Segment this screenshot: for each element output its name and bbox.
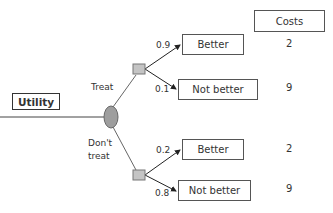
outcome-treat-better: Better xyxy=(182,34,244,55)
outcome-label: Better xyxy=(197,39,228,50)
outcome-dont-better: Better xyxy=(182,139,244,160)
chance-node-dont-treat xyxy=(133,170,145,180)
costs-header-box: Costs xyxy=(254,10,325,32)
chance-node-treat xyxy=(133,64,145,74)
cost-dont-better: 2 xyxy=(286,143,292,154)
outcome-dont-not-better: Not better xyxy=(178,180,251,201)
branch-label-treat2: treat xyxy=(88,151,110,161)
outcome-label: Better xyxy=(197,144,228,155)
prob-treat-better: 0.9 xyxy=(156,40,170,50)
prob-treat-not-better: 0.1 xyxy=(155,84,169,94)
costs-label: Costs xyxy=(276,16,303,27)
branch-label-dont: Don't xyxy=(88,138,112,148)
utility-box: Utility xyxy=(12,93,60,110)
prob-dont-not-better: 0.8 xyxy=(155,188,169,198)
outcome-label: Not better xyxy=(192,84,243,95)
outcome-treat-not-better: Not better xyxy=(178,79,258,100)
utility-label: Utility xyxy=(18,96,54,108)
cost-treat-better: 2 xyxy=(286,38,292,49)
branch-label-treat: Treat xyxy=(91,82,113,92)
prob-dont-better: 0.2 xyxy=(156,145,170,155)
cost-treat-not-better: 9 xyxy=(286,82,292,93)
outcome-label: Not better xyxy=(189,185,240,196)
cost-dont-not-better: 9 xyxy=(286,183,292,194)
decision-node-ellipse xyxy=(104,106,118,128)
